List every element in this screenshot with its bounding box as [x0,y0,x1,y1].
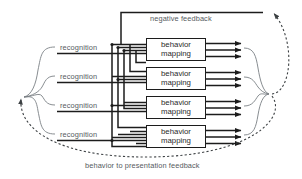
behavior-mapping-line2: mapping [146,78,206,87]
presentation-feedback-label: behavior to presentation feedback [85,162,200,169]
behavior-mapping-line2: mapping [146,49,206,58]
behavior-mapping-line1: behavior [146,127,206,136]
behavior-mapping-label: behavior mapping [146,40,206,58]
right-brace [244,48,269,135]
behavior-mapping-line1: behavior [146,40,206,49]
negative-feedback-dashed [272,14,289,95]
behavior-mapping-line2: mapping [146,136,206,145]
behavior-mapping-label: behavior mapping [146,69,206,87]
behavior-mapping-label: behavior mapping [146,127,206,145]
behavior-mapping-line1: behavior [146,69,206,78]
recognition-label: recognition [60,73,97,80]
behavior-mapping-line2: mapping [146,107,206,116]
recognition-label: recognition [60,131,97,138]
recognition-label: recognition [60,102,97,109]
crossbar-feeds [112,45,146,144]
behavior-mapping-line1: behavior [146,98,206,107]
recognition-label: recognition [60,44,97,51]
behavior-mapping-label: behavior mapping [146,98,206,116]
left-brace [24,47,55,134]
output-lines [206,44,241,144]
diagram-canvas: behavior mapping behavior mapping behavi… [0,0,302,179]
negative-feedback-label: negative feedback [150,15,212,22]
